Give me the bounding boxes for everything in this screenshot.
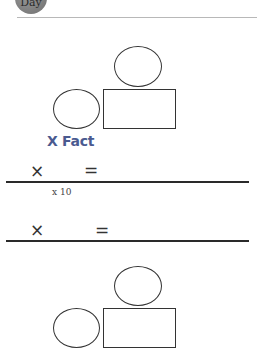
day-badge: Day bbox=[15, 0, 47, 14]
answer-line[interactable] bbox=[6, 240, 249, 242]
top-oval-input[interactable] bbox=[114, 266, 162, 306]
top-oval-input[interactable] bbox=[114, 46, 162, 87]
times-sign: × bbox=[30, 161, 44, 181]
section-title: X Fact bbox=[47, 133, 94, 149]
rectangle-input[interactable] bbox=[103, 308, 176, 348]
multiplier-note: x 10 bbox=[52, 187, 71, 197]
answer-line[interactable] bbox=[6, 181, 249, 183]
day-badge-label: Day bbox=[15, 0, 47, 9]
left-oval-input[interactable] bbox=[53, 89, 100, 129]
left-oval-input[interactable] bbox=[53, 308, 100, 348]
equals-sign: = bbox=[84, 160, 98, 180]
times-sign: × bbox=[30, 220, 44, 240]
rectangle-input[interactable] bbox=[103, 89, 176, 129]
equals-sign: = bbox=[95, 220, 109, 240]
header-divider bbox=[17, 17, 257, 18]
